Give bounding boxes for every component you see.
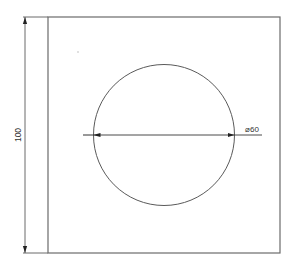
stray-dot	[77, 51, 79, 53]
diameter-dimension: ⌀60	[83, 125, 262, 135]
technical-drawing: 100 ⌀60	[0, 0, 297, 272]
height-dimension: 100	[13, 17, 48, 253]
height-label: 100	[13, 128, 23, 142]
diameter-label: ⌀60	[245, 125, 259, 134]
